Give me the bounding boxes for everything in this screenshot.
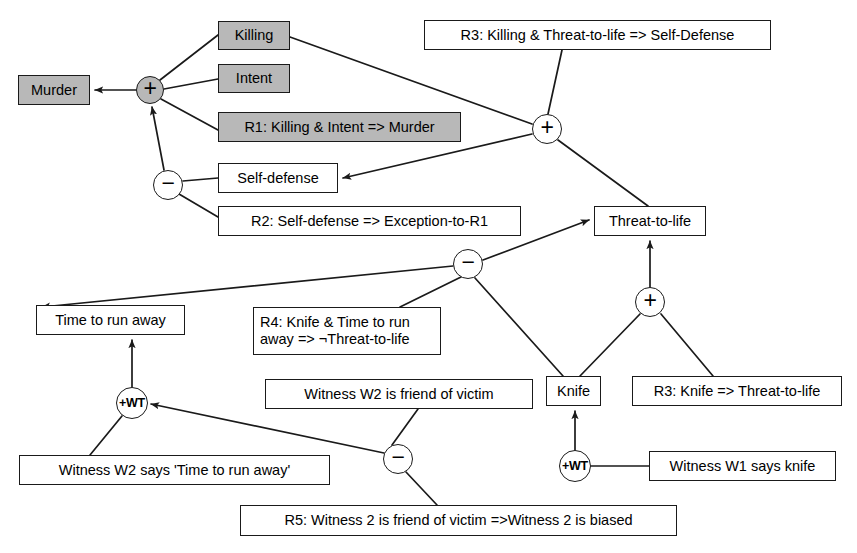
node-label-murder: Murder (31, 82, 77, 99)
edge-r4-to-minus-threat (400, 277, 461, 307)
connector-plus-threat[interactable]: + (635, 287, 665, 317)
node-label-w1says: Witness W1 says knife (670, 458, 816, 475)
connector-minus-threat[interactable]: − (453, 249, 483, 279)
edge-minus-r1-to-plus-murder (152, 107, 164, 170)
node-killing[interactable]: Killing (218, 21, 290, 50)
edge-killing-to-plus-selfdef (290, 37, 532, 124)
connector-wt-knife[interactable]: +WT (559, 450, 591, 482)
connector-symbol-minus-bias: − (391, 446, 404, 469)
connector-minus-r1[interactable]: − (153, 170, 183, 200)
node-r2[interactable]: R2: Self-defense => Exception-to-R1 (218, 206, 521, 236)
node-murder[interactable]: Murder (18, 75, 90, 105)
edge-group (42, 35, 713, 505)
connector-symbol-minus-threat: − (461, 251, 474, 274)
edge-timetorun-to-minus-threat (42, 266, 453, 307)
node-selfdefense[interactable]: Self-defense (218, 163, 338, 193)
connector-plus-selfdef[interactable]: + (532, 114, 562, 144)
node-label-r3knife: R3: Knife => Threat-to-life (654, 383, 821, 400)
node-label-r3sd: R3: Killing & Threat-to-life => Self-Def… (461, 27, 735, 44)
node-threat[interactable]: Threat-to-life (594, 206, 706, 236)
node-r3knife[interactable]: R3: Knife => Threat-to-life (632, 376, 842, 406)
node-label-selfdefense: Self-defense (237, 170, 318, 187)
node-timetorun[interactable]: Time to run away (36, 305, 185, 335)
node-label-w2friend: Witness W2 is friend of victim (304, 386, 493, 403)
edge-knife-to-minus-threat (475, 278, 563, 376)
connector-plus-murder[interactable]: + (136, 76, 164, 104)
node-knife[interactable]: Knife (546, 376, 601, 406)
connector-symbol-plus-threat: + (643, 289, 656, 312)
edge-r3knife-to-plus-threat (661, 314, 713, 376)
node-w2friend[interactable]: Witness W2 is friend of victim (265, 379, 533, 409)
diagram-canvas: MurderKillingIntentR1: Killing & Intent … (0, 0, 857, 553)
edge-intent-to-plus-murder (164, 79, 218, 89)
connector-minus-bias[interactable]: − (383, 444, 413, 474)
edge-r5-to-minus-bias (406, 472, 437, 505)
connector-symbol-wt-knife: +WT (562, 460, 588, 473)
edge-r3sd-to-plus-selfdef (548, 50, 562, 114)
node-label-r5: R5: Witness 2 is friend of victim =>Witn… (284, 512, 632, 529)
node-label-knife: Knife (557, 383, 590, 400)
edge-killing-to-plus-murder (160, 35, 218, 80)
edge-w2says-to-wt-timetorun (90, 416, 122, 455)
node-label-r1: R1: Killing & Intent => Murder (244, 119, 434, 136)
node-r1[interactable]: R1: Killing & Intent => Murder (218, 112, 461, 142)
edge-selfdefense-to-minus-r1 (183, 178, 218, 181)
edge-minus-bias-to-wt-timetorun (151, 404, 384, 453)
edge-threat-to-plus-selfdef (558, 140, 648, 206)
edge-r1-to-plus-murder (161, 99, 218, 130)
node-r4[interactable]: R4: Knife & Time to run away => ¬Threat-… (253, 307, 441, 355)
node-r3sd[interactable]: R3: Killing & Threat-to-life => Self-Def… (424, 20, 771, 50)
connector-wt-timetorun[interactable]: +WT (116, 387, 148, 419)
edge-w2friend-to-minus-bias (392, 409, 418, 445)
node-label-r2: R2: Self-defense => Exception-to-R1 (251, 213, 488, 230)
node-w1says[interactable]: Witness W1 says knife (649, 451, 836, 481)
node-label-intent: Intent (236, 70, 272, 87)
connector-symbol-minus-r1: − (161, 172, 174, 195)
connector-symbol-wt-timetorun: +WT (119, 397, 145, 410)
node-label-threat: Threat-to-life (609, 213, 691, 230)
node-label-r4: R4: Knife & Time to run away => ¬Threat-… (260, 314, 410, 347)
connector-symbol-plus-selfdef: + (540, 116, 553, 139)
node-label-killing: Killing (235, 27, 274, 44)
edge-r2-to-minus-r1 (179, 194, 218, 217)
node-label-timetorun: Time to run away (55, 312, 166, 329)
node-r5[interactable]: R5: Witness 2 is friend of victim =>Witn… (240, 505, 677, 536)
node-w2says[interactable]: Witness W2 says 'Time to run away' (19, 455, 330, 485)
node-intent[interactable]: Intent (218, 64, 290, 93)
node-label-w2says: Witness W2 says 'Time to run away' (59, 462, 290, 479)
connector-symbol-plus-murder: + (143, 77, 156, 100)
edge-knife-to-plus-threat (580, 314, 640, 376)
